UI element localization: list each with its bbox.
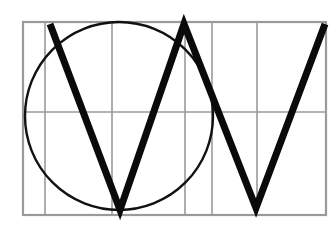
figure-canvas bbox=[0, 0, 331, 237]
geometric-figure bbox=[0, 0, 331, 237]
